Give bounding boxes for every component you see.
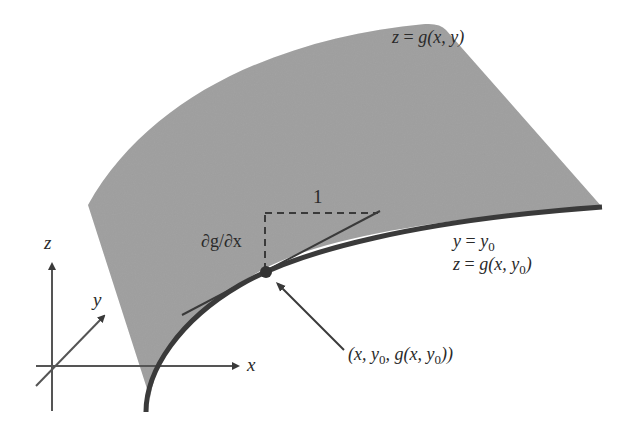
surface-equation-label: z = g(x, y)	[392, 28, 464, 46]
partial-derivative-label: ∂g/∂x	[201, 232, 242, 250]
surface-eq-fn: g	[418, 27, 427, 47]
slice-y-label: y = y0	[453, 232, 495, 254]
pointer-arrow	[278, 284, 344, 350]
point-close: ))	[441, 344, 453, 364]
surface-eq-equals: =	[399, 27, 418, 47]
slice-z-close: )	[526, 254, 532, 274]
point-var1: y	[371, 344, 379, 364]
run-label: 1	[313, 187, 323, 206]
y-axis	[36, 316, 104, 386]
slice-y-sub: 0	[488, 239, 494, 254]
slice-y-lhs: y	[453, 231, 461, 251]
slice-z-equals: =	[460, 254, 479, 274]
surface-patch	[88, 24, 602, 398]
slice-z-fn: g	[479, 254, 488, 274]
slice-y-equals: =	[461, 231, 480, 251]
slice-z-lhs: z	[453, 254, 460, 274]
point-open: (x,	[348, 344, 371, 364]
x-axis-label: x	[247, 355, 255, 374]
surface-eq-lhs: z	[392, 27, 399, 47]
slice-z-var: y	[511, 254, 519, 274]
slice-z-label: z = g(x, y0)	[453, 255, 532, 277]
diagram-canvas	[0, 0, 632, 439]
y-axis-label: y	[93, 290, 101, 309]
point-coordinates-label: (x, y0, g(x, y0))	[348, 345, 453, 367]
point-mid: , g(x,	[385, 344, 426, 364]
surface-eq-args: (x, y)	[427, 27, 464, 47]
slice-y-var: y	[480, 231, 488, 251]
z-axis-label: z	[44, 233, 51, 252]
slice-z-open: (x,	[488, 254, 511, 274]
point-marker	[260, 266, 272, 278]
